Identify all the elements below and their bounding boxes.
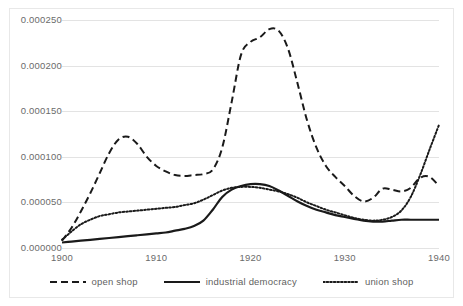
series-line-industrial-democracy xyxy=(62,184,439,243)
x-axis-labels: 19001910192019301940 xyxy=(62,252,439,266)
legend-swatch-solid-icon xyxy=(164,278,200,286)
gridline xyxy=(62,248,439,249)
legend-label: open shop xyxy=(92,276,138,287)
legend-label: union shop xyxy=(365,276,413,287)
y-axis-tick-label: 0.000250 xyxy=(0,14,62,25)
series-lines-group xyxy=(62,20,439,248)
x-axis-tick-label: 1900 xyxy=(42,252,82,263)
x-axis-tick-label: 1940 xyxy=(419,252,459,263)
y-axis-tick-label: 0.000200 xyxy=(0,60,62,71)
legend-label: industrial democracy xyxy=(206,276,297,287)
plot-area xyxy=(62,20,439,248)
y-axis-tick-label: 0.000150 xyxy=(0,105,62,116)
legend-swatch-dashed-icon xyxy=(50,278,86,286)
x-axis-tick-label: 1920 xyxy=(231,252,271,263)
series-line-open-shop xyxy=(62,28,439,240)
chart-legend: open shopindustrial democracyunion shop xyxy=(0,276,463,287)
x-axis-tick-label: 1930 xyxy=(325,252,365,263)
legend-swatch-dotted-icon xyxy=(323,278,359,286)
y-axis-tick-label: 0.000100 xyxy=(0,151,62,162)
legend-item-industrial-democracy[interactable]: industrial democracy xyxy=(164,276,297,287)
chart-container: 0.0000000.0000500.0001000.0001500.000200… xyxy=(0,0,463,306)
legend-item-open-shop[interactable]: open shop xyxy=(50,276,138,287)
y-axis-tick-label: 0.000050 xyxy=(0,196,62,207)
x-axis-tick-label: 1910 xyxy=(136,252,176,263)
legend-item-union-shop[interactable]: union shop xyxy=(323,276,413,287)
